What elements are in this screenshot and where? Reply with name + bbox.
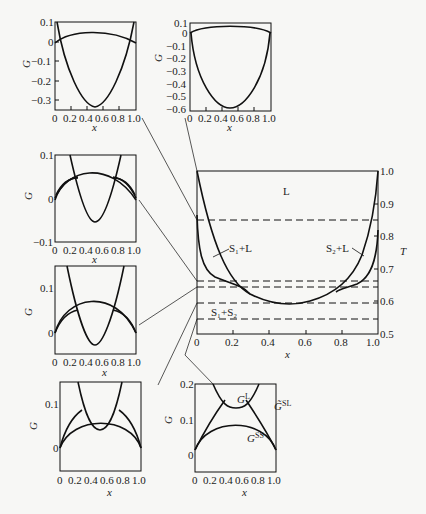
svg-text:0: 0	[188, 449, 194, 461]
svg-text:1.0: 1.0	[127, 356, 141, 368]
svg-text:−0.5: −0.5	[166, 90, 186, 102]
svg-text:0.1: 0.1	[45, 398, 59, 410]
panel-2-ylabel: G	[152, 54, 164, 62]
svg-text:−0.2: −0.2	[166, 52, 186, 64]
svg-text:−0.1: −0.1	[31, 55, 51, 67]
svg-text:0: 0	[57, 474, 63, 486]
label-g-ss: GSS	[247, 431, 264, 444]
svg-text:0.8: 0.8	[111, 356, 125, 368]
svg-text:−0.1: −0.1	[166, 40, 186, 52]
svg-text:0.8: 0.8	[246, 112, 260, 124]
panel-5-gibbs	[60, 382, 141, 471]
region-s2-liquid: S₂+L	[326, 242, 349, 254]
svg-text:−0.4: −0.4	[166, 78, 186, 90]
svg-text:0: 0	[187, 112, 193, 124]
svg-text:1.0: 1.0	[380, 165, 394, 177]
svg-text:1.0: 1.0	[132, 474, 146, 486]
svg-text:0.8: 0.8	[380, 230, 394, 242]
region-s1-liquid: S₁+L	[229, 242, 252, 254]
panel-4-gibbs	[55, 266, 136, 354]
panel-2-xlabel: x	[226, 121, 232, 133]
svg-text:0.2: 0.2	[198, 112, 212, 124]
svg-text:0.6: 0.6	[95, 244, 109, 256]
svg-text:0.4: 0.4	[84, 474, 98, 486]
svg-text:0: 0	[52, 244, 58, 256]
svg-text:−0.3: −0.3	[31, 94, 51, 106]
panel-3-gibbs	[55, 155, 136, 242]
panel-1-ylabel: G	[20, 60, 32, 68]
svg-text:0.1: 0.1	[40, 149, 54, 161]
svg-text:0: 0	[48, 327, 54, 339]
svg-text:0.2: 0.2	[63, 244, 77, 256]
svg-text:1.0: 1.0	[262, 112, 276, 124]
svg-text:−0.6: −0.6	[166, 103, 186, 115]
svg-text:0: 0	[52, 356, 58, 368]
panel-5-ylabel: G	[27, 422, 39, 430]
svg-text:0.4: 0.4	[79, 356, 93, 368]
svg-text:1.0: 1.0	[366, 336, 380, 348]
svg-text:0.6: 0.6	[230, 112, 244, 124]
svg-text:0.1: 0.1	[40, 282, 54, 294]
panel-2-ticks: 0.1 0 −0.1 −0.2 −0.3 −0.4 −0.5 −0.6 0 0.…	[166, 17, 276, 124]
svg-text:1.0: 1.0	[127, 244, 141, 256]
svg-text:0.2: 0.2	[68, 474, 82, 486]
connector-lines	[139, 118, 214, 385]
panel-5-xlabel: x	[106, 486, 112, 498]
svg-text:0.6: 0.6	[298, 336, 312, 348]
svg-text:0: 0	[194, 336, 200, 348]
svg-text:0: 0	[192, 474, 198, 486]
svg-text:0.9: 0.9	[380, 198, 394, 210]
svg-text:0.2: 0.2	[180, 378, 194, 390]
panel-2-gibbs	[190, 23, 271, 111]
svg-text:0.6: 0.6	[100, 474, 114, 486]
svg-text:0.2: 0.2	[63, 356, 77, 368]
svg-text:0: 0	[48, 36, 54, 48]
main-y-ticks: 0.5 0.6 0.7 0.8 0.9 1.0	[380, 165, 394, 340]
svg-text:0.2: 0.2	[225, 336, 239, 348]
panel-3-ticks: 0.1 0 −0.1 0 0.2 0.4 0.6 0.8 1.0	[33, 149, 141, 256]
label-g-sl: G̃SL	[274, 399, 291, 412]
svg-text:0.8: 0.8	[251, 474, 265, 486]
svg-text:0: 0	[182, 27, 188, 39]
svg-text:0: 0	[48, 193, 54, 205]
panel-4-ylabel: G	[22, 308, 34, 316]
panel-3-xlabel: x	[91, 253, 97, 265]
svg-text:−0.2: −0.2	[31, 75, 51, 87]
svg-text:1.0: 1.0	[267, 474, 281, 486]
svg-text:0.6: 0.6	[235, 474, 249, 486]
panel-3-ylabel: G	[22, 192, 34, 200]
svg-text:0.2: 0.2	[63, 112, 77, 124]
svg-text:0.1: 0.1	[40, 16, 54, 28]
panel-6-gibbs	[195, 384, 276, 472]
svg-text:0.8: 0.8	[111, 112, 125, 124]
svg-text:0: 0	[53, 442, 59, 454]
svg-text:0.4: 0.4	[219, 474, 233, 486]
phase-diagram-figure: L S₁+L S₂+L S₁+S₂ x T 0 0.2 0.4 0.6 0.8 …	[0, 0, 426, 514]
panel-4-xlabel: x	[101, 366, 107, 378]
svg-text:0.4: 0.4	[261, 336, 275, 348]
svg-text:0.5: 0.5	[380, 328, 394, 340]
panel-1-xlabel: x	[91, 121, 97, 133]
svg-text:0.1: 0.1	[180, 414, 194, 426]
svg-text:−0.3: −0.3	[166, 65, 186, 77]
panel-6-ylabel: G	[162, 416, 174, 424]
panel-6-xlabel: x	[241, 486, 247, 498]
svg-text:−0.1: −0.1	[33, 236, 53, 248]
region-s1-s2: S₁+S₂	[211, 306, 237, 318]
svg-text:0.7: 0.7	[380, 263, 394, 275]
svg-text:0.6: 0.6	[380, 295, 394, 307]
svg-text:0.6: 0.6	[95, 112, 109, 124]
svg-text:0.2: 0.2	[203, 474, 217, 486]
main-ylabel: T	[400, 245, 407, 257]
main-x-ticks: 0 0.2 0.4 0.6 0.8 1.0	[194, 336, 380, 348]
panel-1-gibbs	[55, 22, 136, 110]
svg-text:0.8: 0.8	[111, 244, 125, 256]
svg-text:0.8: 0.8	[116, 474, 130, 486]
region-liquid: L	[283, 185, 290, 197]
svg-text:1.0: 1.0	[127, 112, 141, 124]
svg-text:0: 0	[52, 112, 58, 124]
main-xlabel: x	[284, 348, 290, 360]
svg-text:0.8: 0.8	[334, 336, 348, 348]
